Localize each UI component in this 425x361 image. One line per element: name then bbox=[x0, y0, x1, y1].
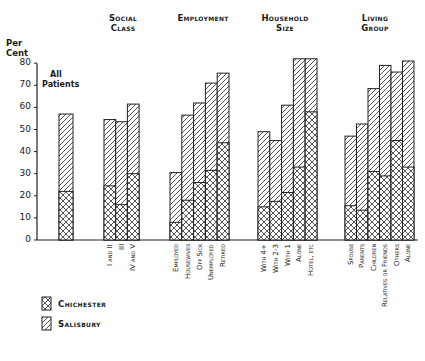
x-category-label: Relatives or Friends bbox=[380, 244, 390, 307]
bar-chichester bbox=[182, 200, 194, 240]
bar-chichester bbox=[59, 191, 73, 240]
header-household-line1: Household bbox=[250, 13, 320, 23]
group-header-social-class: Social Class bbox=[98, 13, 148, 33]
bar-chichester bbox=[270, 201, 282, 240]
y-tick-label: 50 bbox=[9, 124, 31, 134]
header-social-line2: Class bbox=[98, 23, 148, 33]
bar-chichester bbox=[391, 141, 403, 240]
bar-chichester bbox=[357, 210, 369, 240]
x-category-label: Unemployed bbox=[206, 244, 216, 280]
bar-chichester bbox=[116, 205, 128, 240]
header-household-line2: Size bbox=[250, 23, 320, 33]
group-header-living-group: Living Group bbox=[350, 13, 400, 33]
x-category-label: IV and V bbox=[128, 244, 138, 271]
x-category-label: Employed bbox=[171, 244, 181, 272]
y-tick-label: 0 bbox=[9, 234, 31, 244]
bar-chichester bbox=[170, 222, 182, 240]
y-tick-label: 10 bbox=[9, 212, 31, 222]
bar-chichester bbox=[205, 170, 217, 240]
legend-label-chichester: Chichester bbox=[58, 299, 106, 309]
y-tick-label: 70 bbox=[9, 79, 31, 89]
x-category-label: Housewives bbox=[183, 244, 193, 279]
x-category-label: Others bbox=[392, 244, 402, 266]
all-patients-line1: All bbox=[42, 70, 79, 80]
bar-chichester bbox=[104, 186, 116, 240]
bar-chichester bbox=[305, 112, 317, 240]
y-axis-title-line1: Per bbox=[6, 38, 28, 48]
y-axis-title: Per Cent bbox=[6, 38, 28, 58]
y-tick-label: 80 bbox=[9, 57, 31, 67]
x-category-label: Off Sick bbox=[195, 244, 205, 270]
x-category-label: With 2-3 bbox=[271, 244, 281, 273]
legend-swatch-chichester bbox=[42, 297, 51, 310]
x-category-label: Spouse bbox=[346, 244, 356, 265]
bars bbox=[59, 59, 414, 240]
bar-chichester bbox=[282, 192, 294, 240]
x-category-label: I and II bbox=[105, 244, 115, 266]
x-category-label: III bbox=[117, 244, 127, 250]
header-living-line1: Living bbox=[350, 13, 400, 23]
bar-chichester bbox=[127, 174, 139, 240]
y-tick-label: 60 bbox=[9, 101, 31, 111]
x-category-label: Alone bbox=[403, 244, 413, 262]
x-category-label: With 1 bbox=[283, 244, 293, 266]
legend-label-salisbury: Salisbury bbox=[58, 319, 101, 329]
legend-swatches bbox=[42, 297, 51, 330]
x-category-label: Children bbox=[369, 244, 379, 271]
bar-chichester bbox=[345, 206, 357, 240]
legend-swatch-salisbury bbox=[42, 317, 51, 330]
x-category-label: Retired bbox=[218, 244, 228, 267]
x-category-label: Hotel, etc bbox=[306, 244, 316, 276]
group-header-household-size: Household Size bbox=[250, 13, 320, 33]
bar-chichester bbox=[380, 176, 392, 240]
header-living-line2: Group bbox=[350, 23, 400, 33]
x-category-label: With 4+ bbox=[259, 244, 269, 272]
y-tick-label: 20 bbox=[9, 190, 31, 200]
bar-chichester bbox=[293, 167, 305, 240]
header-social-line1: Social bbox=[98, 13, 148, 23]
bar-chichester bbox=[258, 207, 270, 240]
all-patients-line2: Patients bbox=[42, 80, 79, 90]
bar-chichester bbox=[403, 167, 415, 240]
x-category-label: Alone bbox=[294, 244, 304, 262]
bar-chichester bbox=[194, 183, 206, 240]
y-tick-label: 30 bbox=[9, 168, 31, 178]
group-header-employment: Employment bbox=[163, 13, 243, 23]
bar-chichester bbox=[368, 171, 380, 240]
y-tick-label: 40 bbox=[9, 146, 31, 156]
bar-chichester bbox=[217, 143, 229, 240]
header-employment-line1: Employment bbox=[163, 13, 243, 23]
x-category-label: Parents bbox=[357, 244, 367, 268]
all-patients-label: All Patients bbox=[42, 70, 79, 90]
